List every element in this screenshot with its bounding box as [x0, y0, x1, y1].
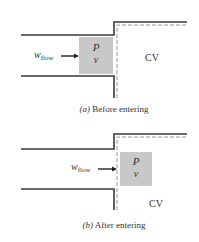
arrow-head-a — [74, 54, 79, 59]
panel-a: wflow P v CV (a) Before entering — [21, 22, 187, 114]
cv-label-a: CV — [145, 52, 160, 63]
pipe-lower-wall-b — [21, 189, 114, 210]
w-flow-label-a: wflow — [34, 49, 54, 62]
caption-a: (a) Before entering — [80, 104, 149, 114]
flow-work-diagram: wflow P v CV (a) Before entering wflow P — [0, 0, 199, 242]
specific-volume-label-b: v — [134, 168, 139, 179]
cv-label-b: CV — [149, 198, 164, 209]
pressure-label-a: P — [92, 41, 100, 53]
w-flow-label-b: wflow — [71, 161, 91, 174]
specific-volume-label-a: v — [94, 54, 99, 65]
pipe-lower-wall-a — [21, 76, 114, 98]
pipe-upper-wall-b — [21, 134, 187, 149]
panel-b: wflow P v CV (b) After entering — [21, 134, 187, 230]
pressure-label-b: P — [132, 155, 140, 167]
pipe-upper-wall-a — [21, 22, 187, 35]
arrow-head-b — [112, 167, 117, 172]
caption-b: (b) After entering — [83, 220, 146, 230]
